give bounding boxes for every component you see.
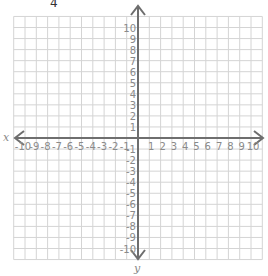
y-tick-label: 8 bbox=[130, 45, 136, 56]
y-tick-label: 4 bbox=[130, 89, 136, 100]
x-tick-label: 6 bbox=[205, 141, 211, 152]
y-tick-label: -4 bbox=[126, 177, 136, 188]
x-tick-label: -5 bbox=[75, 141, 85, 152]
x-tick-label: 10 bbox=[247, 141, 260, 152]
x-tick-label: 4 bbox=[182, 141, 188, 152]
y-tick-label: -10 bbox=[120, 244, 136, 255]
x-tick-label: -9 bbox=[29, 141, 39, 152]
axes bbox=[15, 6, 263, 259]
x-tick-label: 8 bbox=[227, 141, 233, 152]
y-tick-label: 1 bbox=[130, 122, 136, 133]
y-tick-label: 9 bbox=[130, 34, 136, 45]
y-axis-name: y bbox=[133, 262, 141, 275]
y-tick-label: 5 bbox=[130, 78, 136, 89]
x-tick-label: -7 bbox=[52, 141, 62, 152]
x-tick-label: -8 bbox=[41, 141, 51, 152]
y-tick-label: 3 bbox=[130, 100, 136, 111]
y-tick-label: 7 bbox=[130, 56, 136, 67]
x-tick-label: -6 bbox=[63, 141, 73, 152]
y-tick-label: 6 bbox=[130, 67, 136, 78]
coordinate-plane: -10-9-8-7-6-5-4-3-2-112345678910 1098765… bbox=[0, 0, 268, 276]
y-tick-label: -7 bbox=[126, 210, 136, 221]
x-tick-label: 2 bbox=[159, 141, 165, 152]
x-tick-label: 3 bbox=[171, 141, 177, 152]
x-tick-label: -4 bbox=[86, 141, 96, 152]
x-tick-label: -3 bbox=[97, 141, 107, 152]
y-tick-label: -1 bbox=[126, 144, 136, 155]
y-tick-label: -8 bbox=[126, 221, 136, 232]
x-tick-label: 1 bbox=[148, 141, 154, 152]
y-tick-label: -3 bbox=[126, 166, 136, 177]
y-tick-label: 2 bbox=[130, 111, 136, 122]
x-tick-label: 7 bbox=[216, 141, 222, 152]
x-tick-label: 9 bbox=[239, 141, 245, 152]
y-tick-label: 10 bbox=[123, 23, 136, 34]
x-tick-label: 5 bbox=[193, 141, 199, 152]
y-tick-label: -9 bbox=[126, 232, 136, 243]
y-tick-label: -5 bbox=[126, 188, 136, 199]
y-tick-label: -2 bbox=[126, 155, 136, 166]
x-tick-label: -2 bbox=[108, 141, 118, 152]
y-tick-label: -6 bbox=[126, 199, 136, 210]
x-axis-name: x bbox=[3, 131, 10, 144]
